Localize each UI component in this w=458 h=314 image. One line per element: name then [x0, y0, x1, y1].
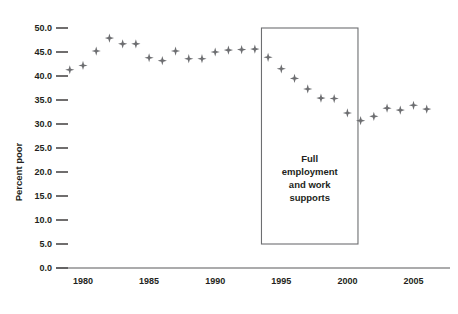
data-point-marker	[118, 39, 127, 48]
y-tick-label: 10.0	[34, 215, 52, 225]
x-tick-label: 2000	[337, 276, 357, 286]
data-point-marker	[211, 47, 220, 56]
data-point-marker	[409, 101, 418, 110]
annotation-group: Fullemploymentand worksupports	[261, 28, 358, 244]
data-point-marker	[158, 56, 167, 65]
data-point-marker	[131, 39, 140, 48]
annotation-line: employment	[282, 166, 339, 177]
y-axis-title: Percent poor	[13, 142, 24, 201]
x-tick-label: 1990	[205, 276, 225, 286]
data-point-marker	[65, 65, 74, 74]
x-axis-tick-labels: 198019851990199520002005	[73, 276, 424, 286]
y-tick-label: 40.0	[34, 71, 52, 81]
data-point-marker	[422, 105, 431, 114]
y-tick-label: 25.0	[34, 143, 52, 153]
y-tick-label: 20.0	[34, 167, 52, 177]
data-point-marker	[396, 105, 405, 114]
data-point-marker	[105, 33, 114, 42]
y-tick-label: 15.0	[34, 191, 52, 201]
data-point-marker	[290, 74, 299, 83]
data-point-marker	[92, 46, 101, 55]
data-point-marker	[145, 53, 154, 62]
chart-container: 0.05.010.015.020.025.030.035.040.045.050…	[0, 0, 458, 314]
data-point-marker	[250, 45, 259, 54]
full-employment-box	[261, 28, 358, 244]
data-point-marker	[224, 45, 233, 54]
y-tick-label: 35.0	[34, 95, 52, 105]
annotation-line: Full	[301, 153, 318, 164]
y-tick-label: 50.0	[34, 23, 52, 33]
data-point-marker	[237, 45, 246, 54]
data-point-marker	[303, 84, 312, 93]
data-point-marker	[171, 46, 180, 55]
annotation-line: and work	[289, 179, 331, 190]
x-tick-label: 1985	[139, 276, 159, 286]
x-tick-label: 2005	[403, 276, 423, 286]
y-axis-ticks	[56, 28, 68, 268]
data-point-marker	[356, 116, 365, 125]
data-markers	[65, 33, 431, 125]
data-point-marker	[382, 104, 391, 113]
data-point-marker	[330, 94, 339, 103]
data-point-marker	[197, 54, 206, 63]
y-tick-label: 30.0	[34, 119, 52, 129]
x-tick-label: 1980	[73, 276, 93, 286]
y-tick-label: 5.0	[39, 239, 52, 249]
y-tick-label: 0.0	[39, 263, 52, 273]
data-point-marker	[343, 108, 352, 117]
data-point-marker	[316, 93, 325, 102]
x-tick-label: 1995	[271, 276, 291, 286]
y-tick-label: 45.0	[34, 47, 52, 57]
data-point-marker	[78, 61, 87, 70]
y-axis-tick-labels: 0.05.010.015.020.025.030.035.040.045.050…	[34, 23, 52, 273]
data-point-marker	[263, 53, 272, 62]
data-point-marker	[184, 54, 193, 63]
scatter-plot: 0.05.010.015.020.025.030.035.040.045.050…	[0, 0, 458, 314]
annotation-line: supports	[289, 192, 330, 203]
data-point-marker	[369, 112, 378, 121]
data-point-marker	[277, 64, 286, 73]
